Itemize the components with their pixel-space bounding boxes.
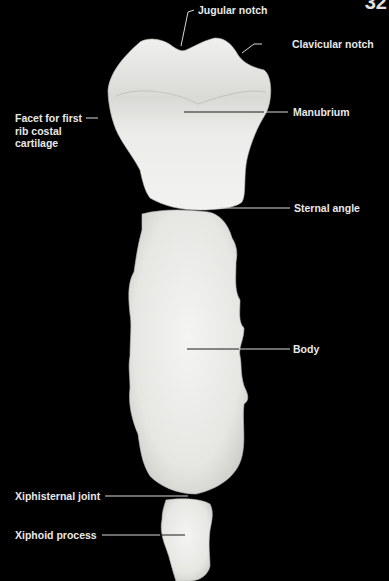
label-facet-line-2: rib costal: [15, 125, 82, 138]
label-facet-line-1: Facet for first: [15, 112, 82, 125]
label-xiphisternal-joint: Xiphisternal joint: [15, 490, 100, 503]
page-number: 32: [365, 0, 387, 14]
manubrium-bone: [108, 38, 271, 210]
sternum-body-bone: [129, 210, 248, 494]
label-jugular-notch: Jugular notch: [198, 4, 267, 17]
label-sternal-angle: Sternal angle: [294, 202, 360, 215]
label-facet-first-rib: Facet for first rib costal cartilage: [15, 112, 82, 150]
label-clavicular-notch: Clavicular notch: [292, 38, 374, 51]
label-manubrium: Manubrium: [293, 106, 350, 119]
label-xiphoid-process: Xiphoid process: [15, 529, 97, 542]
label-facet-line-3: cartilage: [15, 137, 82, 150]
xiphoid-process-bone: [161, 499, 212, 581]
label-body: Body: [293, 343, 319, 356]
